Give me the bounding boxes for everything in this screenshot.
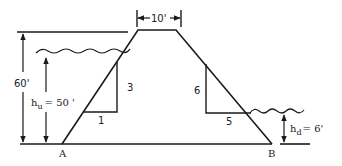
dam-profile	[62, 30, 272, 144]
dam-height-label: 60'	[14, 78, 29, 89]
downstream-slope-triangle	[206, 64, 251, 113]
downstream-depth-label: hd= 6'	[290, 123, 323, 137]
upstream-water-surface	[36, 49, 130, 53]
upstream-slope-horizontal-label: 1	[98, 115, 104, 126]
dam-diagram: 10' 60' hu= 50 ' 3 1 6 5 hd= 6' A B	[0, 0, 342, 166]
upstream-slope-vertical-label: 3	[127, 82, 133, 93]
downstream-depth-subscript: d	[296, 128, 301, 137]
downstream-depth-value: = 6'	[303, 123, 324, 134]
point-b-label: B	[268, 148, 275, 159]
upstream-depth-subscript: u	[37, 102, 42, 111]
upstream-depth-label: hu= 50 '	[31, 97, 75, 111]
point-a-label: A	[58, 148, 67, 159]
downstream-water-surface	[250, 109, 304, 113]
crest-width-label: 10'	[151, 13, 166, 24]
downstream-slope-vertical-label: 6	[194, 85, 200, 96]
downstream-slope-horizontal-label: 5	[226, 116, 232, 127]
upstream-depth-value: = 50 '	[45, 97, 75, 108]
